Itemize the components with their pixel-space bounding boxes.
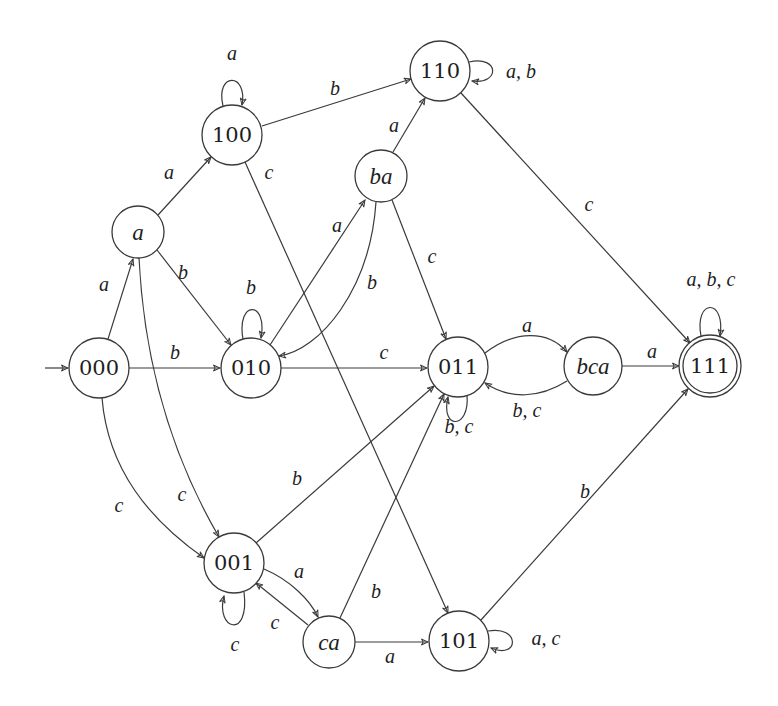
transition-label: b xyxy=(292,467,302,489)
transition-001-to-ca xyxy=(264,569,318,617)
transition-label: b xyxy=(170,341,180,363)
state-label: a xyxy=(132,220,144,245)
state-100: 100 xyxy=(202,105,262,165)
transition-label: c xyxy=(231,633,240,655)
state-001: 001 xyxy=(204,533,264,593)
transition-label: b xyxy=(367,271,377,293)
transition-label: a, b xyxy=(506,60,536,82)
transition-110-to-110 xyxy=(469,61,493,81)
transition-label: b xyxy=(330,77,340,99)
transition-101-to-111 xyxy=(481,389,688,620)
transitions-layer xyxy=(102,61,721,651)
transition-label: b xyxy=(580,480,590,502)
state-ba: ba xyxy=(355,150,407,202)
transition-label: a xyxy=(294,560,304,582)
transition-label: c xyxy=(380,341,389,363)
transition-a-to-010 xyxy=(157,250,231,345)
transition-label: a xyxy=(99,273,109,295)
state-label: 011 xyxy=(438,355,478,379)
transition-label: a xyxy=(385,645,395,667)
transition-110-to-111 xyxy=(461,93,690,343)
transition-010-to-010 xyxy=(242,310,262,339)
transition-label: a xyxy=(227,42,237,64)
edge-labels-layer: abcabcabca, bcabcbacab, cb, caa, b, cbca… xyxy=(99,42,736,667)
transition-100-to-100 xyxy=(222,80,243,106)
transition-011-to-bca xyxy=(485,336,567,353)
transition-ba-to-011 xyxy=(392,200,446,339)
state-label: ca xyxy=(318,630,340,655)
state-ca: ca xyxy=(303,616,355,668)
transition-001-to-011 xyxy=(256,386,434,543)
state-label: 100 xyxy=(212,123,252,147)
state-label: 101 xyxy=(439,629,479,653)
transition-label: a, b, c xyxy=(687,268,736,290)
transition-label: b xyxy=(246,276,256,298)
transition-100-to-101 xyxy=(245,162,448,613)
transition-ca-to-001 xyxy=(256,583,308,625)
state-label: 110 xyxy=(420,59,460,83)
transition-label: a xyxy=(522,314,532,336)
transition-label: b xyxy=(178,261,188,283)
transition-label: c xyxy=(271,611,280,633)
state-label: 111 xyxy=(690,354,730,378)
transition-label: c xyxy=(585,193,594,215)
transition-111-to-111 xyxy=(700,308,721,337)
transition-label: c xyxy=(115,494,124,516)
state-111: 111 xyxy=(679,335,741,397)
transition-000-to-a xyxy=(108,259,133,339)
state-000: 000 xyxy=(69,338,129,398)
transition-label: a xyxy=(332,214,342,236)
transition-label: c xyxy=(178,483,187,505)
transition-label: a xyxy=(389,114,399,136)
state-label: 010 xyxy=(231,356,271,380)
state-label: bca xyxy=(576,354,609,379)
state-label: ba xyxy=(370,164,393,189)
automaton-diagram: 000a100110ba010011bca111001ca101 abcabca… xyxy=(0,0,778,706)
transition-bca-to-011 xyxy=(485,381,567,395)
state-label: 001 xyxy=(214,551,254,575)
transition-label: c xyxy=(265,161,274,183)
transition-101-to-101 xyxy=(488,630,512,650)
state-bca: bca xyxy=(564,337,622,395)
state-011: 011 xyxy=(428,337,488,397)
transition-ba-to-010 xyxy=(279,202,376,356)
state-110: 110 xyxy=(410,41,470,101)
transition-label: a xyxy=(647,340,657,362)
transition-ca-to-011 xyxy=(340,394,444,618)
state-010: 010 xyxy=(221,338,281,398)
transition-label: b, c xyxy=(513,399,542,421)
state-101: 101 xyxy=(429,611,489,671)
transition-label: a xyxy=(164,161,174,183)
state-a: a xyxy=(112,206,164,258)
transition-label: b xyxy=(371,580,381,602)
transition-label: a, c xyxy=(532,627,561,649)
transition-label: c xyxy=(428,245,437,267)
transition-label: b, c xyxy=(445,415,474,437)
transition-001-to-001 xyxy=(223,592,245,625)
state-label: 000 xyxy=(79,356,119,380)
